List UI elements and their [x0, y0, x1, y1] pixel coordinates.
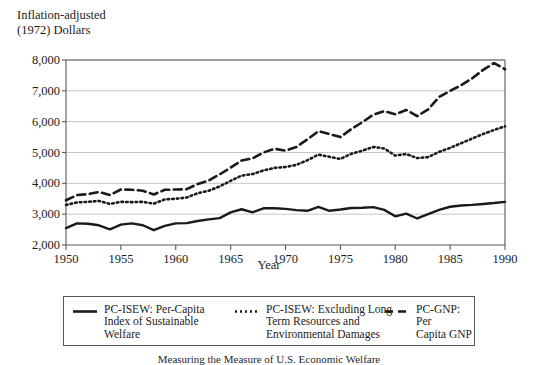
legend-entry: PC-GNP: Per Capita GNP: [384, 303, 474, 340]
series-line-dotted: [66, 126, 505, 205]
chart-legend: PC-ISEW: Per-Capita Index of Sustainable…: [63, 296, 475, 346]
legend-entry: PC-ISEW: Excluding Long Term Resources a…: [234, 303, 392, 340]
y-tick-label: 7,000: [8, 83, 60, 98]
series-line-dashed: [66, 63, 505, 200]
legend-swatch-solid-icon: [72, 306, 98, 317]
legend-label: PC-GNP: Per Capita GNP: [416, 303, 474, 340]
y-tick-label: 6,000: [8, 114, 60, 129]
series-line-solid: [66, 202, 505, 230]
legend-swatch-dashed-icon: [384, 306, 410, 317]
legend-label: PC-ISEW: Per-Capita Index of Sustainable…: [104, 303, 205, 340]
x-axis-title: Year: [0, 258, 538, 273]
legend-entry: PC-ISEW: Per-Capita Index of Sustainable…: [72, 303, 205, 340]
y-tick-label: 3,000: [8, 207, 60, 222]
y-tick-label: 2,000: [8, 238, 60, 253]
y-tick-label: 8,000: [8, 53, 60, 68]
legend-swatch-dotted-icon: [234, 306, 260, 317]
legend-label: PC-ISEW: Excluding Long Term Resources a…: [266, 303, 392, 340]
figure-caption: Measuring the Measure of U.S. Economic W…: [0, 353, 538, 365]
y-tick-label: 5,000: [8, 145, 60, 160]
y-tick-label: 4,000: [8, 176, 60, 191]
